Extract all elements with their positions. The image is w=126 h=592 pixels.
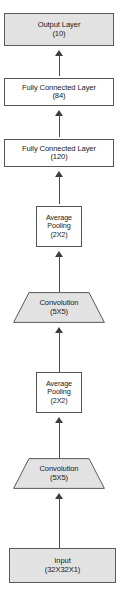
node-average-pooling-1[interactable]: Average Pooling (2X2): [36, 372, 82, 413]
edge-shaft: [59, 498, 60, 548]
node-average-pooling-2[interactable]: Average Pooling (2X2): [36, 206, 82, 247]
node-convolution-2-sublabel: (5X5): [50, 308, 68, 317]
node-convolution-1-sublabel: (5X5): [50, 474, 68, 483]
node-fully-connected-120-sublabel: (120): [50, 153, 67, 162]
edge-shaft: [59, 55, 60, 76]
node-fully-connected-84-sublabel: (84): [52, 92, 65, 101]
node-input-sublabel: (32X32X1): [45, 566, 80, 575]
node-input[interactable]: Input (32X32X1): [9, 548, 116, 583]
edge-shaft: [59, 332, 60, 372]
edge-input-to-conv1: [53, 493, 66, 548]
edge-conv2-to-pool2: [53, 251, 66, 292]
edge-shaft: [59, 422, 60, 458]
node-average-pooling-1-sublabel: (2X2): [50, 397, 67, 405]
edge-shaft: [59, 176, 60, 204]
edge-fc84-to-output: [53, 50, 66, 76]
edge-pool2-to-fc120: [53, 171, 66, 204]
edge-shaft: [59, 115, 60, 137]
node-average-pooling-2-sublabel: (2X2): [50, 231, 67, 239]
edge-fc120-to-fc84: [53, 110, 66, 137]
network-architecture-diagram: Output Layer (10) Fully Connected Layer …: [0, 0, 126, 592]
edge-shaft: [59, 256, 60, 292]
node-output-layer[interactable]: Output Layer (10): [4, 13, 114, 46]
node-convolution-2[interactable]: Convolution (5X5): [13, 292, 105, 323]
edge-pool1-to-conv2: [53, 327, 66, 372]
node-fully-connected-120[interactable]: Fully Connected Layer (120): [4, 139, 114, 167]
node-convolution-1-text: Convolution (5X5): [13, 458, 105, 489]
edge-conv1-to-pool1: [53, 417, 66, 458]
node-convolution-2-text: Convolution (5X5): [13, 292, 105, 323]
node-fully-connected-84[interactable]: Fully Connected Layer (84): [4, 78, 114, 106]
node-output-layer-sublabel: (10): [52, 30, 65, 39]
node-convolution-1[interactable]: Convolution (5X5): [13, 458, 105, 489]
